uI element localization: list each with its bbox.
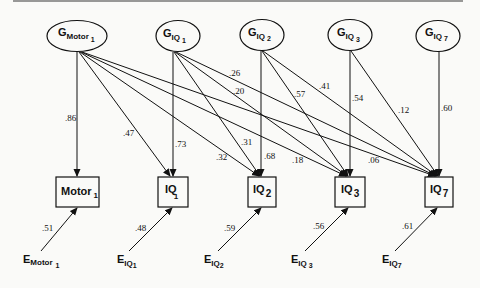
- loading-eiq7: .61: [402, 221, 413, 231]
- sem-diagram: GMotor1 GIQ1 GIQ2 GIQ3 GIQ7 Motor1 IQ1 I…: [0, 0, 480, 288]
- weight-giq3-iq7: .12: [398, 105, 409, 115]
- path-gmotor1-iq7: [82, 52, 435, 176]
- weight-giq3-iq3: .54: [352, 93, 364, 103]
- weight-gmotor1-motor1: .86: [65, 113, 77, 123]
- error-label-eiq1: EIQ1: [117, 253, 137, 269]
- error-label-emotor1: EMotor1: [23, 253, 60, 269]
- path-eiq3-iq3: [305, 208, 348, 251]
- loading-eiq3: .56: [313, 221, 325, 231]
- paths-g-motor1: [77, 52, 435, 176]
- weight-gmotor1-iq2: .32: [216, 152, 227, 162]
- weight-giq1-iq1: .73: [175, 139, 187, 149]
- weight-giq2-iq2: .68: [264, 151, 276, 161]
- weight-giq1-iq2: .31: [241, 137, 252, 147]
- weight-giq1-iq7: .26: [229, 68, 241, 78]
- weight-gmotor1-iq3: .18: [292, 155, 304, 165]
- paths-g-iq2: [261, 51, 437, 176]
- weight-gmotor1-iq7: .06: [368, 155, 380, 165]
- loading-eiq1: .48: [135, 223, 147, 233]
- error-label-eiq3: EIQ3: [291, 253, 313, 269]
- path-gmotor1-iq1: [79, 52, 170, 176]
- loading-eiq2: .59: [224, 223, 236, 233]
- weight-giq2-iq7: .41: [319, 81, 330, 91]
- paths-g-iq3: [350, 51, 438, 176]
- weight-giq7-iq7: .60: [441, 103, 453, 113]
- path-giq3-iq7: [351, 51, 438, 176]
- weight-gmotor1-iq1: .47: [123, 128, 135, 138]
- error-paths: [41, 208, 437, 251]
- error-label-eiq7: EIQ7: [382, 253, 402, 269]
- error-label-eiq2: EIQ2: [204, 253, 224, 269]
- weight-giq1-iq3: .20: [233, 86, 245, 96]
- weight-giq2-iq3: .57: [294, 89, 306, 99]
- loading-emotor1: .51: [42, 223, 53, 233]
